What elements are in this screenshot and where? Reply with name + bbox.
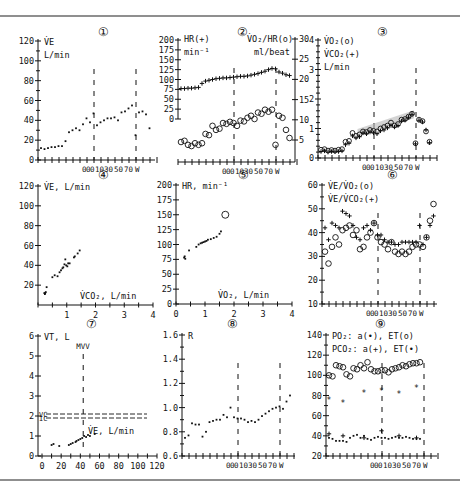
- y-axis-label: VT, L: [44, 332, 70, 342]
- y-tick-label: 120: [307, 350, 322, 360]
- y-axis-label: V̇E/V̇O₂(o): [328, 180, 374, 191]
- y-tick-label: 0.8: [163, 427, 178, 437]
- y-axis-label: V̇E, L/min: [44, 181, 90, 192]
- y-tick-label: 40: [24, 115, 34, 125]
- panel-7: ⑦0123456020406080100120VT, LV̇E, L/minMV…: [29, 317, 165, 471]
- left-y-axis-label: HR(+): [184, 34, 210, 44]
- y-tick-label: 6: [29, 331, 34, 341]
- x-tick-label: W: [275, 167, 280, 176]
- y-tick-label: 3: [309, 65, 314, 75]
- y-tick-label: 200: [157, 180, 172, 190]
- y-tick-label: 100: [157, 240, 172, 250]
- ic-label: IC: [39, 415, 47, 423]
- y-tick-label: 120: [19, 181, 34, 191]
- x-tick-label: 4: [150, 310, 155, 320]
- y-tick-label: 5: [29, 351, 34, 361]
- y-tick-label: 3: [29, 391, 34, 401]
- y-tick-label: 175: [157, 195, 172, 205]
- y-tick-label: 150: [159, 55, 174, 65]
- y-tick-label: 20: [24, 135, 34, 145]
- y-tick-label: 4: [29, 371, 34, 381]
- y-tick-label: 25: [164, 104, 174, 114]
- y-tick-label: 0: [309, 153, 314, 163]
- x-tick-label: 50: [258, 461, 268, 470]
- y-tick-label: 175: [159, 45, 174, 55]
- x-tick-label: 70: [268, 461, 278, 470]
- x-tick-label: 80: [114, 461, 124, 471]
- x-tick-label: 120: [149, 461, 164, 471]
- svg-text:*: *: [414, 384, 419, 393]
- x-tick-label: W: [279, 461, 284, 470]
- left-y-axis-label: min⁻¹: [184, 47, 210, 57]
- panel-5: ⑤025507510012515017520001234HR, min⁻¹V̇O…: [157, 168, 295, 319]
- right-y-tick-label: 30: [299, 34, 309, 44]
- panel-number-label: ⑧: [227, 317, 238, 331]
- right-y-tick-label: 25: [299, 54, 309, 64]
- cpet-nine-panel-figure: ①02040608010012000010305070WV̇EL/min②025…: [0, 0, 460, 496]
- x-tick-label: 70: [264, 167, 274, 176]
- x-tick-label: 30: [392, 461, 402, 470]
- x-tick-label: 70: [124, 165, 134, 174]
- y-tick-label: 40: [308, 228, 318, 238]
- y-tick-label: 75: [164, 84, 174, 94]
- x-tick-label: 30: [248, 461, 258, 470]
- panel-number-label: ①: [98, 25, 109, 39]
- y-axis-label: L/min: [44, 50, 70, 60]
- y-tick-label: 20: [312, 451, 322, 461]
- x-tick-label: W: [419, 309, 424, 318]
- svg-text:*: *: [327, 396, 332, 405]
- y-tick-label: 140: [307, 330, 322, 340]
- panel-number-label: ⑤: [238, 168, 249, 182]
- x-tick-label: 1: [64, 310, 69, 320]
- x-tick-label: 50: [398, 309, 408, 318]
- x-tick-label: 30: [388, 309, 398, 318]
- y-tick-label: 1: [29, 431, 34, 441]
- y-tick-label: 1.4: [163, 354, 178, 364]
- y-tick-label: 1.2: [163, 378, 178, 388]
- y-tick-label: 40: [312, 431, 322, 441]
- y-tick-label: 50: [308, 204, 318, 214]
- panel-9: ⑨2040608010012014000010305070WPO₂: a(•),…: [307, 317, 438, 470]
- x-tick-label: 3: [122, 310, 127, 320]
- mvv-label: MVV: [76, 342, 90, 351]
- y-tick-label: 60: [24, 241, 34, 251]
- x-axis-label: V̇CO₂, L/min: [80, 290, 136, 301]
- y-tick-label: 40: [24, 260, 34, 270]
- x-tick-label: 70: [408, 309, 418, 318]
- y-tick-label: 1.0: [163, 403, 178, 413]
- y-tick-label: 0: [167, 299, 172, 309]
- y-axis-label: PCO₂: a(+), ET(•): [332, 344, 419, 354]
- panel-3: ③0123400010305070WV̇O₂(o)V̇CO₂(+)L/min: [309, 25, 437, 172]
- y-tick-label: 125: [157, 225, 172, 235]
- x-tick-label: 70: [412, 461, 422, 470]
- right-y-tick-label: 10: [299, 115, 309, 125]
- x-tick-label: 4: [289, 309, 294, 319]
- y-axis-label: V̇E/V̇CO₂(+): [328, 193, 379, 204]
- y-tick-label: 20: [24, 280, 34, 290]
- x-tick-label: 20: [56, 461, 66, 471]
- x-tick-label: W: [415, 163, 420, 172]
- y-tick-label: 2: [309, 94, 314, 104]
- y-tick-label: 80: [24, 221, 34, 231]
- x-tick-label: W: [135, 165, 140, 174]
- y-tick-label: 4: [309, 35, 314, 45]
- y-tick-label: 0: [29, 451, 34, 461]
- x-tick-label: 0: [173, 309, 178, 319]
- y-tick-label: 1: [309, 124, 314, 134]
- panel-8: ⑧0.60.81.01.21.41.600010305070WR: [163, 317, 295, 470]
- y-tick-label: 100: [159, 75, 174, 85]
- y-tick-label: 2: [29, 411, 34, 421]
- x-tick-label: 50: [114, 165, 124, 174]
- y-axis-label: PO₂: a(•), ET(o): [332, 331, 414, 341]
- y-tick-label: 50: [162, 269, 172, 279]
- panel-4: ④204060801001201234V̇E, L/minV̇CO₂, L/mi…: [19, 168, 156, 320]
- svg-text:*: *: [379, 387, 384, 396]
- y-axis-label: V̇E: [44, 36, 54, 47]
- y-tick-label: 200: [159, 35, 174, 45]
- panel-number-label: ③: [377, 25, 388, 39]
- y-tick-label: 0: [29, 155, 34, 165]
- x-axis-label: V̇O₂, L/min: [218, 289, 269, 300]
- panel-2: ②025507510012515017520051015202530000103…: [159, 25, 310, 176]
- y-tick-label: 60: [312, 411, 322, 421]
- panel-number-label: ⑦: [86, 317, 97, 331]
